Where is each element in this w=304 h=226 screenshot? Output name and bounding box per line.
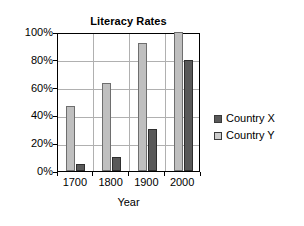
bar [138,43,147,171]
bar [66,106,75,171]
plot-area [57,33,200,172]
legend-swatch-icon [214,132,222,140]
bar [174,32,183,171]
x-axis-tick-mark [57,172,58,176]
plot-inner [58,34,199,171]
x-axis-tick-label: 1800 [93,176,129,188]
x-axis-tick-label: 2000 [164,176,200,188]
x-axis-tick-label: 1700 [57,176,93,188]
x-axis-tick-labels: 1700180019002000 [57,176,200,190]
x-axis-tick-label: 1900 [129,176,165,188]
x-axis-tick-mark [200,172,201,176]
gridline-vertical [165,34,166,171]
bar [102,83,111,171]
bar [112,157,121,171]
x-axis-tick-mark [92,172,93,176]
gridline-vertical [93,34,94,171]
y-axis-tick-label: 40% [31,110,53,121]
legend-label: Country Y [226,130,275,141]
y-axis-tick-label: 80% [31,55,53,66]
legend-swatch-icon [214,115,222,123]
x-axis-tick-mark [128,172,129,176]
x-axis-title: Year [57,196,200,208]
y-axis-tick-label: 20% [31,138,53,149]
literacy-rates-chart: Literacy Rates 0%20%40%60%80%100% 170018… [0,0,304,226]
chart-title: Literacy Rates [57,15,200,27]
legend-item: Country X [214,110,275,127]
y-axis-tick-label: 60% [31,83,53,94]
x-axis-tick-mark [164,172,165,176]
legend-item: Country Y [214,127,275,144]
chart-legend: Country XCountry Y [214,110,275,144]
y-axis-tick-label: 0% [37,166,53,177]
bar [76,164,85,171]
bar [148,129,157,171]
y-axis-tick-labels: 0%20%40%60%80%100% [5,33,53,172]
gridline-vertical [129,34,130,171]
bar [184,60,193,171]
legend-label: Country X [226,113,275,124]
y-axis-tick-label: 100% [25,27,53,38]
